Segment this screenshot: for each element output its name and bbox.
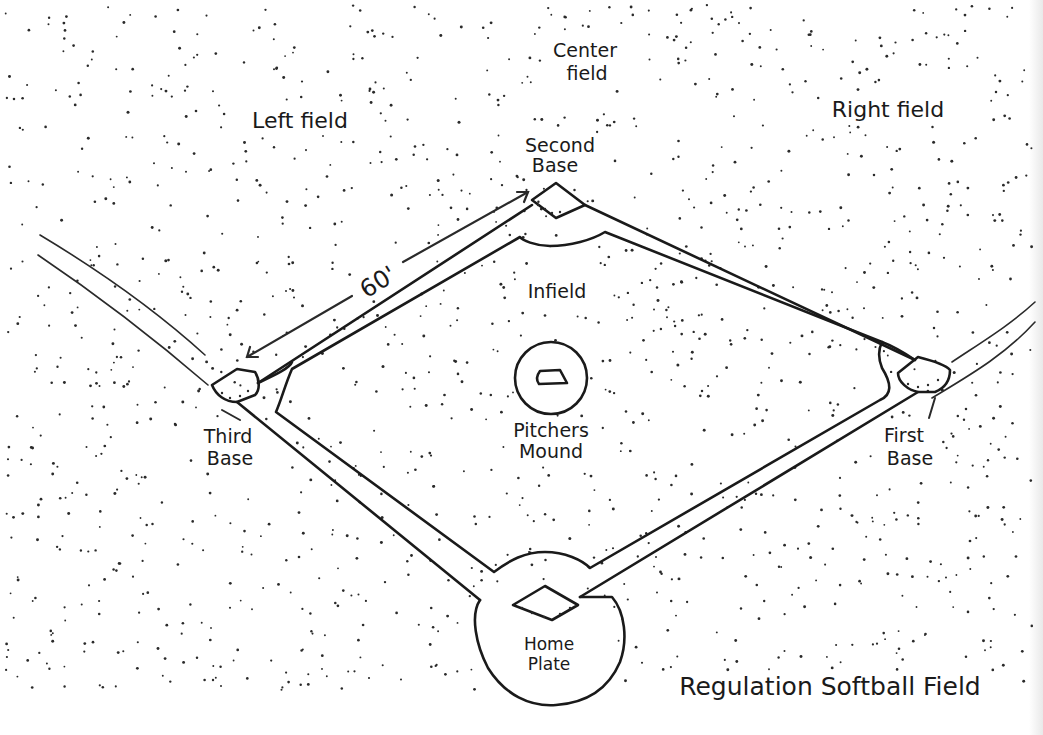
stipple-dot bbox=[860, 583, 862, 585]
stipple-dot bbox=[375, 390, 378, 393]
stipple-dot bbox=[40, 498, 43, 501]
stipple-dot bbox=[212, 679, 214, 681]
stipple-dot bbox=[839, 344, 841, 346]
stipple-dot bbox=[144, 543, 146, 545]
stipple-dot bbox=[521, 82, 523, 84]
stipple-dot bbox=[810, 30, 813, 33]
stipple-dot bbox=[62, 50, 64, 52]
stipple-dot bbox=[971, 5, 974, 8]
stipple-dot bbox=[440, 303, 442, 305]
stipple-dot bbox=[731, 88, 734, 91]
stipple-dot bbox=[480, 392, 482, 394]
stipple-dot bbox=[112, 202, 115, 205]
stipple-dot bbox=[929, 560, 932, 563]
stipple-dot bbox=[261, 137, 263, 139]
stipple-dot bbox=[924, 634, 926, 636]
stipple-dot bbox=[982, 639, 985, 642]
stipple-dot bbox=[1022, 680, 1025, 683]
stipple-dot bbox=[169, 204, 171, 206]
stipple-dot bbox=[289, 400, 292, 403]
stipple-dot bbox=[52, 632, 54, 634]
stipple-dot bbox=[501, 184, 503, 186]
stipple-dot bbox=[126, 176, 128, 178]
stipple-dot bbox=[516, 175, 519, 178]
stipple-dot bbox=[555, 234, 558, 237]
stipple-dot bbox=[216, 415, 218, 417]
stipple-dot bbox=[10, 182, 12, 184]
stipple-dot bbox=[933, 327, 936, 330]
stipple-dot bbox=[783, 650, 785, 652]
stipple-dot bbox=[672, 158, 674, 160]
stipple-dot bbox=[30, 463, 32, 465]
baseline-third-to-home-outer bbox=[237, 402, 480, 600]
stipple-dot bbox=[632, 304, 634, 306]
stipple-dot bbox=[470, 669, 472, 671]
stipple-dot bbox=[6, 97, 8, 99]
stipple-dot bbox=[293, 296, 295, 298]
stipple-dot bbox=[490, 178, 492, 180]
stipple-dot bbox=[132, 366, 134, 368]
stipple-dot bbox=[329, 164, 331, 166]
stipple-dot bbox=[132, 576, 134, 578]
stipple-dot bbox=[1026, 143, 1029, 146]
stipple-dot bbox=[649, 58, 651, 60]
stipple-dot bbox=[311, 633, 313, 635]
stipple-dot bbox=[724, 18, 726, 20]
stipple-dot bbox=[464, 272, 466, 274]
stipple-dot bbox=[77, 306, 79, 308]
stipple-dot bbox=[625, 410, 628, 413]
stipple-dot bbox=[311, 548, 313, 550]
stipple-dot bbox=[949, 591, 951, 593]
stipple-dot bbox=[629, 450, 632, 453]
stipple-dot bbox=[7, 331, 9, 333]
stipple-dot bbox=[91, 417, 93, 419]
stipple-dot bbox=[348, 273, 351, 276]
stipple-dot bbox=[229, 582, 232, 585]
stipple-dot bbox=[437, 224, 439, 226]
stipple-dot bbox=[590, 475, 593, 478]
stipple-dot bbox=[17, 579, 20, 582]
home-plate bbox=[513, 586, 578, 620]
stipple-dot bbox=[641, 282, 643, 284]
stipple-dot bbox=[969, 540, 972, 543]
stipple-dot bbox=[797, 548, 799, 550]
stipple-dot bbox=[206, 215, 209, 218]
stipple-dot bbox=[196, 656, 198, 658]
stipple-dot bbox=[800, 655, 803, 658]
stipple-dot bbox=[113, 362, 115, 364]
stipple-dot bbox=[333, 223, 336, 226]
stipple-dot bbox=[309, 227, 311, 229]
stipple-dot bbox=[508, 320, 510, 322]
label-center-field-1: Center bbox=[553, 39, 617, 61]
stipple-dot bbox=[164, 657, 167, 660]
stipple-dot bbox=[181, 633, 183, 635]
stipple-dot bbox=[884, 638, 886, 640]
stipple-dot bbox=[808, 34, 811, 37]
stipple-dot bbox=[138, 612, 140, 614]
stipple-dot bbox=[831, 291, 833, 293]
stipple-dot bbox=[597, 321, 599, 323]
stipple-dot bbox=[974, 137, 977, 140]
stipple-dot bbox=[407, 504, 409, 506]
stipple-dot bbox=[870, 455, 872, 457]
stipple-dot bbox=[162, 675, 164, 677]
stipple-dot bbox=[759, 203, 762, 206]
stipple-dot bbox=[789, 342, 791, 344]
stipple-dot bbox=[185, 314, 187, 316]
stipple-dot bbox=[876, 494, 878, 496]
stipple-dot bbox=[447, 579, 449, 581]
stipple-dot bbox=[769, 551, 772, 554]
stipple-dot bbox=[456, 319, 458, 321]
stipple-dot bbox=[927, 576, 929, 578]
stipple-dot bbox=[1006, 16, 1008, 18]
stipple-dot bbox=[587, 587, 589, 589]
stipple-dot bbox=[711, 260, 713, 262]
stipple-dot bbox=[740, 228, 743, 231]
stipple-dot bbox=[760, 65, 762, 67]
stipple-dot bbox=[596, 131, 598, 133]
stipple-dot bbox=[177, 563, 180, 566]
stipple-dot bbox=[863, 338, 865, 340]
stipple-dot bbox=[326, 175, 329, 178]
stipple-dot bbox=[77, 82, 80, 85]
stipple-dot bbox=[613, 392, 615, 394]
